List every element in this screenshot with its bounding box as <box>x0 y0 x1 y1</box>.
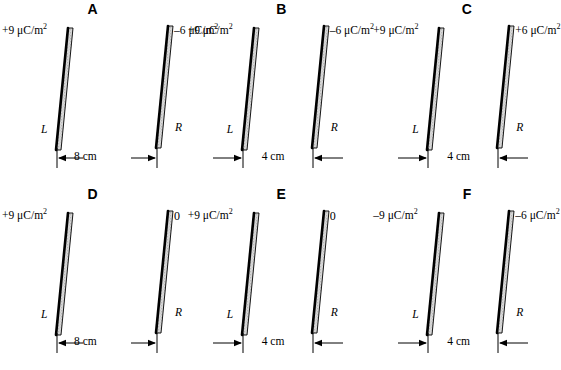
left-plate <box>52 211 74 333</box>
left-plate <box>52 26 74 148</box>
right-sigma-exponent: 2 <box>556 207 560 216</box>
right-plate <box>308 209 330 331</box>
separation-label: 4 cm <box>262 150 285 162</box>
right-sigma-text: –6 μC/m <box>330 24 370 36</box>
right-plate <box>152 24 174 146</box>
left-plate-charge-density: +9 μC/m2 <box>2 209 47 221</box>
panel-a: A+9 μC/m2–6 μC/m2LR8 cm <box>0 0 186 185</box>
left-plate-charge-density: –9 μC/m2 <box>373 209 417 221</box>
panel-letter: E <box>189 186 375 202</box>
left-sigma-exponent: 2 <box>414 207 418 216</box>
left-sigma-text: +9 μC/m <box>2 24 43 36</box>
right-plate-charge-density: –6 μC/m2 <box>515 209 559 221</box>
right-plate-charge-density: 0 <box>174 209 180 224</box>
right-plate-label: R <box>175 121 182 133</box>
left-plate-charge-density: +9 μC/m2 <box>2 24 47 36</box>
left-plate <box>423 26 445 148</box>
left-plate-label: L <box>41 308 47 320</box>
left-sigma-exponent: 2 <box>43 22 47 31</box>
left-plate-charge-density: +9 μC/m2 <box>188 209 233 221</box>
separation-label: 4 cm <box>447 150 470 162</box>
panel-letter: B <box>189 1 375 17</box>
left-plate <box>238 211 260 333</box>
left-plate-charge-density: +9 μC/m2 <box>373 24 418 36</box>
left-plate <box>238 26 260 148</box>
right-plate-label: R <box>331 121 338 133</box>
right-plate-charge-density: +6 μC/m2 <box>515 24 560 36</box>
left-plate-label: L <box>41 123 47 135</box>
right-plate-charge-density: –6 μC/m2 <box>330 24 374 36</box>
panel-letter: C <box>374 1 560 17</box>
right-plate <box>493 209 515 331</box>
panel-letter: D <box>0 186 186 202</box>
left-sigma-text: +9 μC/m <box>373 24 414 36</box>
separation-label: 4 cm <box>262 335 285 347</box>
left-sigma-text: –9 μC/m <box>373 209 413 221</box>
panel-b: B+9 μC/m2–6 μC/m2LR4 cm <box>186 0 372 185</box>
separation-label: 4 cm <box>447 335 470 347</box>
right-plate <box>152 209 174 331</box>
left-plate-label: L <box>412 123 418 135</box>
panel-c: C+9 μC/m2+6 μC/m2LR4 cm <box>371 0 557 185</box>
panel-f: F–9 μC/m2–6 μC/m2LR4 cm <box>371 185 557 370</box>
right-sigma-text: +6 μC/m <box>515 24 556 36</box>
left-sigma-exponent: 2 <box>229 22 233 31</box>
right-plate <box>308 24 330 146</box>
right-plate-label: R <box>175 306 182 318</box>
left-plate <box>423 211 445 333</box>
right-sigma-text: –6 μC/m <box>515 209 555 221</box>
left-plate-label: L <box>227 308 233 320</box>
left-plate-label: L <box>412 308 418 320</box>
right-plate-charge-density: 0 <box>330 209 336 224</box>
right-plate <box>493 24 515 146</box>
right-sigma-text: 0 <box>174 209 180 223</box>
right-plate-label: R <box>516 306 523 318</box>
right-sigma-exponent: 2 <box>556 22 560 31</box>
panel-e: E+9 μC/m20LR4 cm <box>186 185 372 370</box>
separation-label: 8 cm <box>74 150 97 162</box>
left-sigma-text: +9 μC/m <box>188 24 229 36</box>
left-sigma-exponent: 2 <box>229 207 233 216</box>
left-plate-label: L <box>227 123 233 135</box>
right-sigma-text: 0 <box>330 209 336 223</box>
left-sigma-text: +9 μC/m <box>2 209 43 221</box>
right-plate-label: R <box>516 121 523 133</box>
left-sigma-exponent: 2 <box>414 22 418 31</box>
separation-label: 8 cm <box>74 335 97 347</box>
left-sigma-exponent: 2 <box>43 207 47 216</box>
left-sigma-text: +9 μC/m <box>188 209 229 221</box>
panel-d: D+9 μC/m20LR8 cm <box>0 185 186 370</box>
right-plate-label: R <box>331 306 338 318</box>
left-plate-charge-density: +9 μC/m2 <box>188 24 233 36</box>
panel-letter: A <box>0 1 186 17</box>
panel-letter: F <box>374 186 560 202</box>
